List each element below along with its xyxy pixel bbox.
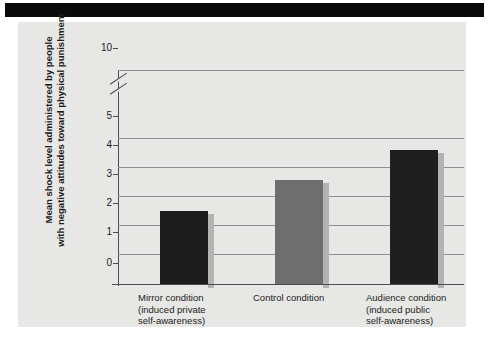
x-category-label-audience: Audience condition (induced public self-… [366,292,476,327]
y-tick-label-5: 5 [106,111,112,121]
chart-panel: Mean shock level administered by people … [18,22,466,327]
y-tick-label-10: 10 [101,43,112,53]
bar-shadow-mirror [208,214,214,288]
bar-fill-mirror [160,211,208,285]
gridline-10 [118,70,464,71]
gridline-5 [118,138,464,139]
y-tick-label-0: 0 [106,258,112,268]
x-category-label-mirror: Mirror condition (induced private self-a… [138,292,243,327]
bar-audience-condition [390,150,438,285]
y-axis-tick-labels: 10 5 4 3 2 1 0 [88,22,112,327]
bar-mirror-condition [160,211,208,285]
y-axis-title: Mean shock level administered by people … [43,5,67,255]
y-tick-label-1: 1 [106,227,112,237]
y-tickmark-10 [113,48,118,49]
x-category-label-control: Control condition [253,292,363,304]
top-black-banner [5,3,484,17]
x-axis-baseline [112,284,464,285]
bar-fill-audience [390,150,438,285]
y-tick-label-2: 2 [106,198,112,208]
bar-shadow-audience [438,153,444,288]
bar-control-condition [275,180,323,285]
bar-shadow-control [323,183,329,288]
bar-fill-control [275,180,323,285]
y-tick-label-4: 4 [106,140,112,150]
y-tick-label-3: 3 [106,169,112,179]
plot-area [118,70,464,285]
